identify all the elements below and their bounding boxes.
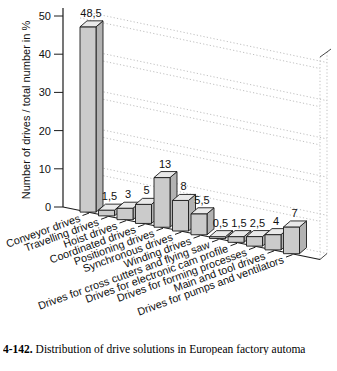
- category-tick: [268, 251, 275, 253]
- end-plate-bottom-edge: [320, 254, 327, 260]
- category-tick: [101, 217, 108, 219]
- bar-value-label: 2,5: [250, 217, 265, 229]
- bar-value-label: 1,5: [102, 190, 117, 202]
- bar-group: [191, 208, 214, 235]
- category-tick: [194, 236, 201, 238]
- figure-caption: 4-142. Distribution of drive solutions i…: [3, 343, 337, 355]
- figure-caption-text: Distribution of drive solutions in Europ…: [33, 343, 306, 355]
- bar-value-label: 13: [159, 158, 171, 170]
- y-axis-title: Number of drives / total number in %: [20, 21, 32, 200]
- grid-line-back: [87, 127, 327, 178]
- bar-front-face: [80, 27, 96, 212]
- bar-front-face: [247, 237, 263, 247]
- category-tick: [249, 247, 256, 249]
- category-tick: [212, 240, 219, 242]
- y-tick-label: 50: [39, 10, 51, 22]
- y-tick-label: 10: [39, 163, 51, 175]
- bar-value-label: 8: [180, 180, 186, 192]
- y-tick-label: 0: [45, 201, 51, 213]
- end-plate-corner: [327, 49, 331, 52]
- bar-value-label: 1,5: [231, 217, 246, 229]
- category-tick: [138, 224, 145, 226]
- bar-front-face: [284, 227, 300, 254]
- end-plate-top-edge: [320, 52, 327, 57]
- bar-front-face: [117, 208, 133, 219]
- bar-front-face: [265, 235, 281, 250]
- category-tick: [231, 243, 238, 245]
- category-tick: [286, 255, 293, 257]
- category-tick: [175, 232, 182, 234]
- grid-line-back: [87, 12, 327, 63]
- bar-front-face: [173, 200, 189, 231]
- drive-distribution-3d-bar-chart: Conveyor drivesTravelling drivesHoist dr…: [0, 0, 337, 340]
- grid-line: [80, 94, 320, 144]
- bar-front-face: [228, 237, 244, 243]
- bar-front-face: [191, 214, 207, 235]
- bar-group: [284, 221, 307, 254]
- category-tick: [120, 221, 127, 223]
- bar-front-face: [154, 178, 170, 228]
- category-tick: [83, 213, 90, 215]
- grid-line: [80, 133, 320, 184]
- grid-line: [80, 18, 320, 69]
- bar-value-label: 4: [273, 215, 279, 227]
- bar-group: [80, 21, 103, 212]
- category-tick: [157, 228, 164, 230]
- bar-value-label: 0,5: [213, 217, 228, 229]
- y-tick-label: 40: [39, 48, 51, 60]
- bar-value-label: 3: [125, 188, 131, 200]
- bar-front-face: [136, 204, 152, 223]
- grid-line-back: [87, 88, 327, 138]
- grid-line-back: [87, 50, 327, 100]
- bar-value-label: 48,5: [80, 7, 101, 19]
- bar-value-label: 5: [143, 184, 149, 196]
- grid-line: [80, 56, 320, 106]
- bar-value-label: 5,5: [194, 194, 209, 206]
- bar-value-label: 7: [291, 207, 297, 219]
- bar-side-face: [96, 21, 103, 212]
- y-tick-label: 20: [39, 125, 51, 137]
- figure-number: 4-142.: [3, 343, 33, 355]
- bar-front-face: [99, 210, 115, 216]
- y-tick-label: 30: [39, 86, 51, 98]
